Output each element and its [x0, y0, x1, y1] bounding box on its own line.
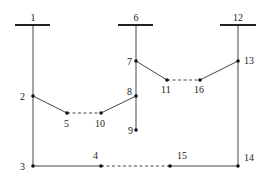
node-dot: [99, 111, 103, 115]
node-dot: [134, 59, 138, 63]
source-bus-1: 1: [15, 12, 50, 25]
node-13: 13: [236, 55, 254, 66]
edge-7-11: [136, 61, 167, 80]
source-bus-6: 6: [118, 12, 153, 25]
node-label: 15: [177, 150, 187, 161]
node-label: 7: [127, 56, 132, 67]
node-label: 11: [161, 84, 171, 95]
buses-layer: 1612: [15, 12, 256, 25]
network-diagram: 1612 2345789101113141516: [0, 0, 270, 183]
node-label: 8: [127, 86, 132, 97]
node-dot: [168, 164, 172, 168]
node-15: 15: [168, 150, 187, 168]
node-label: 13: [244, 55, 254, 66]
node-dot: [65, 111, 69, 115]
node-dot: [134, 128, 138, 132]
node-dot: [165, 78, 169, 82]
node-10: 10: [95, 111, 105, 129]
node-label: 16: [194, 84, 204, 95]
node-dot: [31, 94, 35, 98]
node-4: 4: [93, 150, 103, 168]
node-label: 14: [244, 152, 254, 163]
bus-label: 1: [31, 12, 36, 23]
source-bus-12: 12: [220, 12, 256, 25]
node-label: 4: [93, 150, 98, 161]
node-label: 3: [20, 161, 25, 172]
edge-10-8: [101, 96, 136, 113]
node-11: 11: [161, 78, 171, 95]
node-label: 9: [128, 125, 133, 136]
bus-label: 6: [134, 12, 139, 23]
nodes-layer: 2345789101113141516: [20, 55, 254, 172]
node-label: 2: [20, 91, 25, 102]
node-dot: [236, 164, 240, 168]
node-16: 16: [194, 78, 204, 95]
node-dot: [31, 164, 35, 168]
node-label: 10: [95, 118, 105, 129]
node-dot: [99, 164, 103, 168]
node-5: 5: [64, 111, 69, 129]
node-dot: [198, 78, 202, 82]
node-dot: [236, 59, 240, 63]
node-label: 5: [64, 118, 69, 129]
node-dot: [134, 94, 138, 98]
edge-2-5: [33, 96, 67, 113]
bus-label: 12: [233, 12, 243, 23]
node-14: 14: [236, 152, 254, 168]
edge-16-13: [200, 61, 238, 80]
